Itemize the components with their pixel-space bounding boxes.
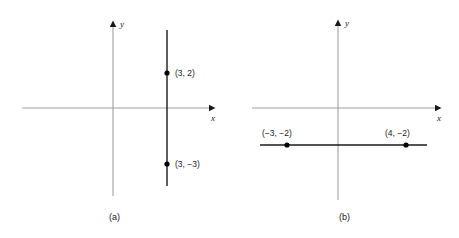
x-axis-label-a: x bbox=[210, 113, 215, 123]
y-axis-label-a: y bbox=[119, 19, 124, 29]
panel-caption-b: (b) bbox=[230, 212, 459, 222]
x-axis-label-b: x bbox=[436, 113, 441, 123]
data-point-a-2 bbox=[164, 161, 169, 166]
panel-b: (−3, −2) (4, −2) x y (b) bbox=[230, 0, 459, 238]
y-axis-label-b: y bbox=[344, 18, 349, 28]
data-point-label-a-2: (3, −3) bbox=[175, 159, 200, 169]
data-point-b-2 bbox=[403, 142, 408, 147]
data-point-b-1 bbox=[284, 142, 289, 147]
panel-caption-a: (a) bbox=[0, 212, 229, 222]
data-point-a-1 bbox=[164, 70, 169, 75]
data-point-label-b-1: (−3, −2) bbox=[262, 128, 292, 138]
panel-a: (3, 2) (3, −3) x y (a) bbox=[0, 0, 229, 238]
panel-b-plot: (−3, −2) (4, −2) x y bbox=[230, 0, 459, 238]
data-point-label-a-1: (3, 2) bbox=[175, 68, 195, 78]
panel-a-plot: (3, 2) (3, −3) x y bbox=[0, 0, 229, 238]
data-point-label-b-2: (4, −2) bbox=[385, 128, 410, 138]
figure-container: (3, 2) (3, −3) x y (a) bbox=[0, 0, 459, 238]
